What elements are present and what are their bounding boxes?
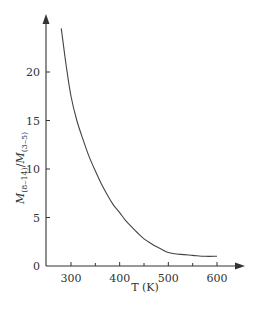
- y-axis-arrow-icon: [43, 14, 50, 24]
- y-tick-label: 20: [26, 66, 40, 79]
- axes: [43, 14, 246, 270]
- y-label-sub1: (8–14): [20, 167, 29, 193]
- y-tick-label: 0: [33, 260, 40, 273]
- y-axis-label: M(8–14)/M(3–5): [14, 132, 29, 205]
- y-label-sub2: (3–5): [20, 132, 29, 152]
- x-tick-label: 400: [109, 272, 130, 285]
- x-axis-arrow-icon: [235, 263, 245, 270]
- x-tick-label: 500: [158, 272, 179, 285]
- x-tick-label: 300: [61, 272, 82, 285]
- x-tick-label: 600: [207, 272, 228, 285]
- y-tick-label: 15: [26, 115, 40, 128]
- x-axis-label: T (K): [131, 281, 159, 294]
- chart: 30040050060005101520 T (K) M(8–14)/M(3–5…: [0, 0, 255, 309]
- y-label-m1: M: [14, 192, 27, 205]
- ticks: 30040050060005101520: [26, 66, 228, 285]
- y-label-m2: M: [14, 152, 27, 165]
- y-tick-label: 5: [33, 212, 40, 225]
- data-line: [61, 28, 217, 256]
